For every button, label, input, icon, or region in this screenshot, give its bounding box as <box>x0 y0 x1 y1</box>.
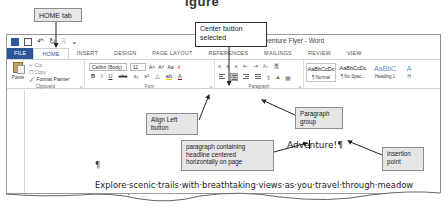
shrink-font-button[interactable]: A˅ <box>158 64 164 70</box>
page-margin-line <box>24 90 25 194</box>
font-group: Calibri (Body) 11 A˄ A˅ Aa ✗ B I U abc x… <box>85 60 215 90</box>
copy-button[interactable]: ❐ Copy <box>29 69 69 76</box>
change-case-button[interactable]: Aa <box>168 64 174 70</box>
multilevel-list-icon[interactable]: ≡ <box>234 63 237 69</box>
shading-icon[interactable]: ▲ <box>275 74 281 80</box>
subscript-button[interactable]: x₂ <box>133 73 138 80</box>
headline-paragraph[interactable]: Adventure!¶ <box>287 140 343 150</box>
format-painter-button[interactable]: 🖌 Format Painter <box>29 76 69 83</box>
font-name-select[interactable]: Calibri (Body) <box>89 63 127 71</box>
tab-references[interactable]: REFERENCES <box>201 48 257 59</box>
style-heading-2[interactable]: A H <box>402 63 416 82</box>
sort-button[interactable]: A↓ <box>263 63 269 69</box>
grow-font-button[interactable]: A˄ <box>149 64 155 70</box>
right-tear-mask <box>441 30 448 195</box>
customize-icon[interactable]: ⌄ <box>71 37 78 46</box>
style-no-spacing[interactable]: AaBbCcDc ¶ No Spac... <box>338 63 368 82</box>
font-size-select[interactable]: 11 <box>130 63 146 71</box>
tab-insert[interactable]: INSERT <box>69 48 106 59</box>
paragraph-group-label: Paragraph <box>215 84 303 89</box>
ribbon: Paste ✂ Cut ❐ Copy 🖌 Format Painter Clip… <box>7 59 440 89</box>
insertion-point <box>309 140 310 149</box>
font-color-icon[interactable]: A <box>178 73 182 80</box>
center-button[interactable] <box>230 73 238 81</box>
tab-page-layout[interactable]: PAGE LAYOUT <box>144 48 200 59</box>
numbering-icon[interactable]: ≡ <box>226 63 229 69</box>
dialog-launcher-icon[interactable]: ↘ <box>79 84 82 89</box>
font-group-label: Font <box>85 84 214 89</box>
paragraph-group: ≡ ≡ ≡ ⇤ ⇥ A↓ ¶ ⇕ ▲ ▦ Paragraph ↘ <box>215 60 304 90</box>
tab-review[interactable]: REVIEW <box>300 48 339 59</box>
style-heading-1[interactable]: AaBbC Heading 1 <box>370 63 400 82</box>
figure-heading-fragment: igure <box>185 0 219 9</box>
undo-icon[interactable]: ↶ <box>37 37 44 46</box>
callout-home-tab: HOME tab <box>34 8 82 22</box>
callout-headline-paragraph: paragraph containing headline centered h… <box>181 140 274 171</box>
callout-align-left: Align Left button <box>146 113 198 135</box>
align-left-button[interactable] <box>218 73 226 81</box>
style-normal[interactable]: AaBbCcDc ¶ Normal <box>306 63 336 82</box>
increase-indent-icon[interactable]: ⇥ <box>253 63 258 69</box>
align-right-button[interactable] <box>242 73 250 81</box>
clear-formatting-icon[interactable]: ✗ <box>177 64 181 70</box>
empty-paragraph: ¶ <box>95 161 100 170</box>
callout-center-button: Center button selected <box>195 22 267 47</box>
decrease-indent-icon[interactable]: ⇤ <box>243 63 248 69</box>
save-icon[interactable] <box>24 38 32 46</box>
paste-button[interactable]: Paste <box>11 62 25 80</box>
ribbon-tabs: FILE HOME INSERT DESIGN PAGE LAYOUT REFE… <box>7 48 440 59</box>
dialog-launcher-icon[interactable]: ↘ <box>209 84 212 89</box>
redo-icon[interactable]: ↻ <box>49 37 56 46</box>
italic-button[interactable]: I <box>101 73 103 80</box>
bullets-icon[interactable]: ≡ <box>218 63 221 69</box>
tab-mailings[interactable]: MAILINGS <box>256 48 300 59</box>
tab-view[interactable]: VIEW <box>339 48 370 59</box>
torn-page-edge <box>0 188 448 214</box>
window-title: Adventure Flyer - Word <box>257 37 324 44</box>
clipboard-icon <box>13 62 23 73</box>
strikethrough-button[interactable]: abc <box>119 73 128 80</box>
show-hide-marks-button[interactable]: ¶ <box>274 63 279 69</box>
justify-button[interactable] <box>254 73 262 81</box>
borders-icon[interactable]: ▦ <box>285 74 291 81</box>
clipboard-group-label: Clipboard <box>7 84 84 89</box>
clipboard-group: Paste ✂ Cut ❐ Copy 🖌 Format Painter Clip… <box>7 60 85 90</box>
callout-paragraph-group: Paragraph group <box>295 107 343 129</box>
underline-button[interactable]: U <box>109 73 113 80</box>
text-effects-icon[interactable]: △ <box>155 73 160 80</box>
tab-file[interactable]: FILE <box>7 48 33 59</box>
tab-home[interactable]: HOME <box>33 48 68 59</box>
tab-design[interactable]: DESIGN <box>106 48 144 59</box>
bold-button[interactable]: B <box>91 73 95 80</box>
line-spacing-icon[interactable]: ⇕ <box>266 74 271 81</box>
callout-insertion-point: insertion point <box>382 147 424 171</box>
dialog-launcher-icon[interactable]: ↘ <box>298 84 301 89</box>
cut-button[interactable]: ✂ Cut <box>29 62 69 69</box>
highlight-color-icon[interactable]: ab <box>166 73 172 80</box>
word-icon <box>11 38 19 46</box>
touch-mode-icon[interactable]: ☟ <box>61 37 66 46</box>
superscript-button[interactable]: x² <box>144 73 149 80</box>
styles-group: AaBbCcDc ¶ Normal AaBbCcDc ¶ No Spac... … <box>304 60 442 90</box>
